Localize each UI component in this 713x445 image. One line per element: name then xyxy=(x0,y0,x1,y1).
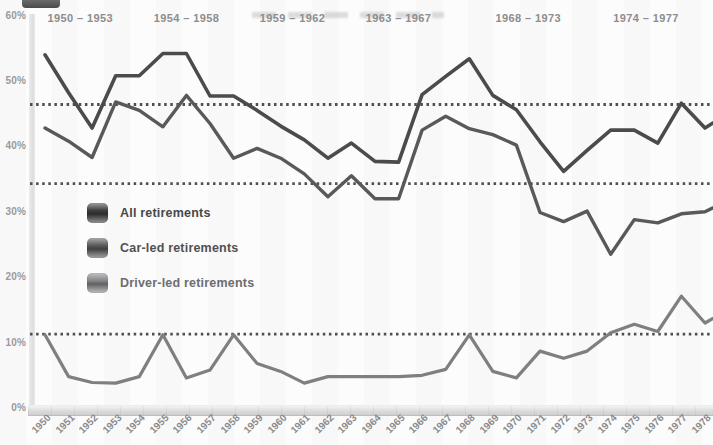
legend-label: All retirements xyxy=(120,206,211,220)
legend-swatch-driver-led-retirements-icon xyxy=(87,273,108,293)
legend-swatch-car-led-retirements-icon xyxy=(87,238,108,258)
legend-item-driver-led-retirements: Driver-led retirements xyxy=(87,273,254,293)
series-line-all-retirements xyxy=(45,54,713,172)
series-line-car-led-retirements xyxy=(45,95,713,254)
legend-swatch-all-retirements-icon xyxy=(87,203,108,223)
legend-item-all-retirements: All retirements xyxy=(87,203,211,223)
legend-label: Car-led retirements xyxy=(120,241,238,255)
legend-item-car-led-retirements: Car-led retirements xyxy=(87,238,238,258)
series-line-driver-led-retirements xyxy=(45,296,713,383)
retirements-line-chart: 1950 – 19531954 – 19581959 – 19621963 – … xyxy=(0,0,713,445)
legend-label: Driver-led retirements xyxy=(120,276,254,290)
